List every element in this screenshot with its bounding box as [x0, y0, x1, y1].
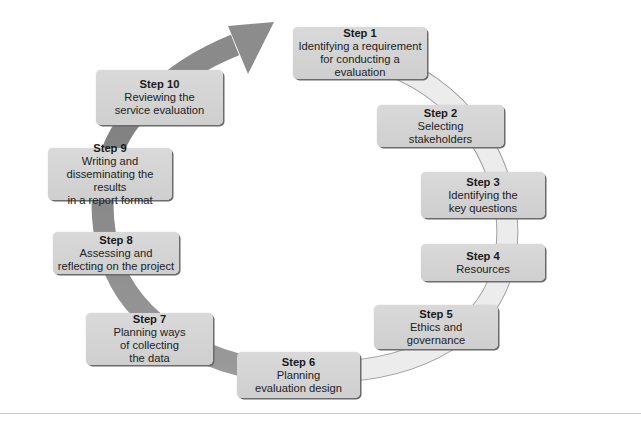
step-9-line-2: disseminating the results — [52, 168, 168, 194]
step-7-line-1: Planning ways — [113, 326, 185, 339]
step-1-line-2: for conducting a — [320, 53, 400, 66]
step-1-box: Step 1 Identifying a requirement for con… — [293, 27, 427, 79]
step-6-box: Step 6 Planning evaluation design — [237, 352, 360, 398]
step-6-line-2: evaluation design — [255, 382, 342, 395]
step-9-line-1: Writing and — [82, 155, 138, 168]
step-5-title: Step 5 — [419, 308, 453, 321]
step-1-title: Step 1 — [343, 27, 377, 40]
step-7-title: Step 7 — [133, 313, 167, 326]
step-6-title: Step 6 — [282, 356, 316, 369]
step-8-line-1: Assessing and — [80, 247, 153, 260]
step-4-box: Step 4 Resources — [421, 244, 545, 281]
bottom-divider — [0, 413, 641, 414]
step-10-line-1: Reviewing the — [124, 91, 194, 104]
step-2-box: Step 2 Selecting stakeholders — [377, 105, 504, 147]
step-5-line-1: Ethics and — [410, 321, 462, 334]
step-10-line-2: service evaluation — [115, 104, 205, 117]
step-7-line-2: of collecting — [120, 339, 179, 352]
step-3-line-2: key questions — [449, 202, 517, 215]
step-8-line-2: reflecting on the project — [58, 260, 174, 273]
step-7-line-3: the data — [129, 352, 169, 365]
step-9-box: Step 9 Writing and disseminating the res… — [48, 148, 172, 200]
step-1-line-1: Identifying a requirement — [298, 40, 421, 53]
step-10-box: Step 10 Reviewing the service evaluation — [96, 70, 223, 125]
step-8-title: Step 8 — [99, 234, 133, 247]
step-6-line-1: Planning — [277, 369, 321, 382]
step-2-line-1: Selecting — [417, 120, 463, 133]
step-2-line-2: stakeholders — [409, 133, 472, 146]
step-5-box: Step 5 Ethics and governance — [374, 305, 498, 349]
step-9-title: Step 9 — [93, 142, 127, 155]
step-5-line-2: governance — [407, 334, 465, 347]
step-3-line-1: Identifying the — [448, 189, 518, 202]
step-4-line-1: Resources — [456, 263, 509, 276]
step-9-line-3: in a report format — [67, 194, 152, 207]
step-1-line-3: evaluation — [334, 66, 385, 79]
step-8-box: Step 8 Assessing and reflecting on the p… — [53, 232, 179, 274]
step-3-title: Step 3 — [466, 176, 500, 189]
step-7-box: Step 7 Planning ways of collecting the d… — [86, 313, 213, 365]
step-3-box: Step 3 Identifying the key questions — [421, 172, 545, 218]
step-10-title: Step 10 — [140, 78, 180, 91]
step-4-title: Step 4 — [466, 250, 500, 263]
step-2-title: Step 2 — [424, 107, 458, 120]
